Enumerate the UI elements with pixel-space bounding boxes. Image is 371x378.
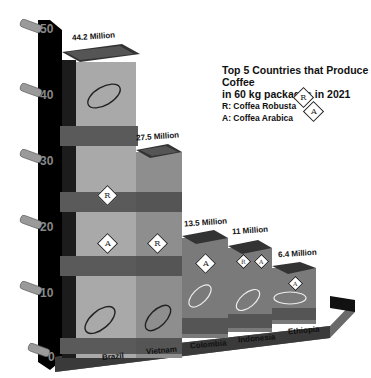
chart-graphics: [0, 0, 371, 378]
title-line-1: Top 5 Countries that Produce Coffee: [222, 64, 371, 88]
chart-root: 50 40 30 20 10 0 Top 5 Countries that Pr…: [0, 0, 371, 378]
y-tick-10: 10: [40, 286, 53, 300]
y-tick-20: 20: [40, 220, 53, 234]
legend: R: Coffea Robusta A: Coffea Arabica: [222, 100, 296, 124]
y-tick-40: 40: [40, 88, 53, 102]
x-label-brazil: Brazil: [102, 351, 124, 362]
y-tick-50: 50: [40, 22, 53, 36]
legend-arabica: A: Coffea Arabica: [222, 112, 296, 124]
legend-robusta: R: Coffea Robusta: [222, 100, 296, 112]
y-tick-30: 30: [40, 154, 53, 168]
y-tick-0: 0: [48, 350, 55, 364]
